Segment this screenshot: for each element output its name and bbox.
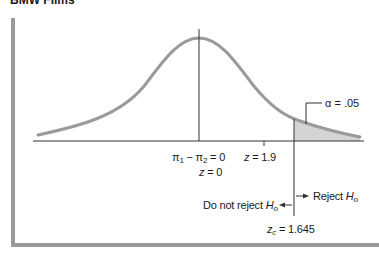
alpha-leader-line	[306, 103, 322, 124]
do-not-reject-label: Do not reject Ho	[203, 199, 278, 211]
z-observed-label: z = 1.9	[244, 151, 276, 163]
alpha-label: α = .05	[325, 97, 359, 109]
critical-value-label: zc = 1.645	[267, 223, 315, 235]
z-zero-label: z = 0	[199, 166, 222, 178]
null-difference-label: π1 − π2 = 0	[172, 151, 225, 163]
arrow-right-icon	[303, 194, 309, 199]
arrow-left-icon	[279, 203, 285, 208]
reject-label: Reject Ho	[313, 190, 358, 202]
normal-curve-diagram	[0, 0, 379, 258]
